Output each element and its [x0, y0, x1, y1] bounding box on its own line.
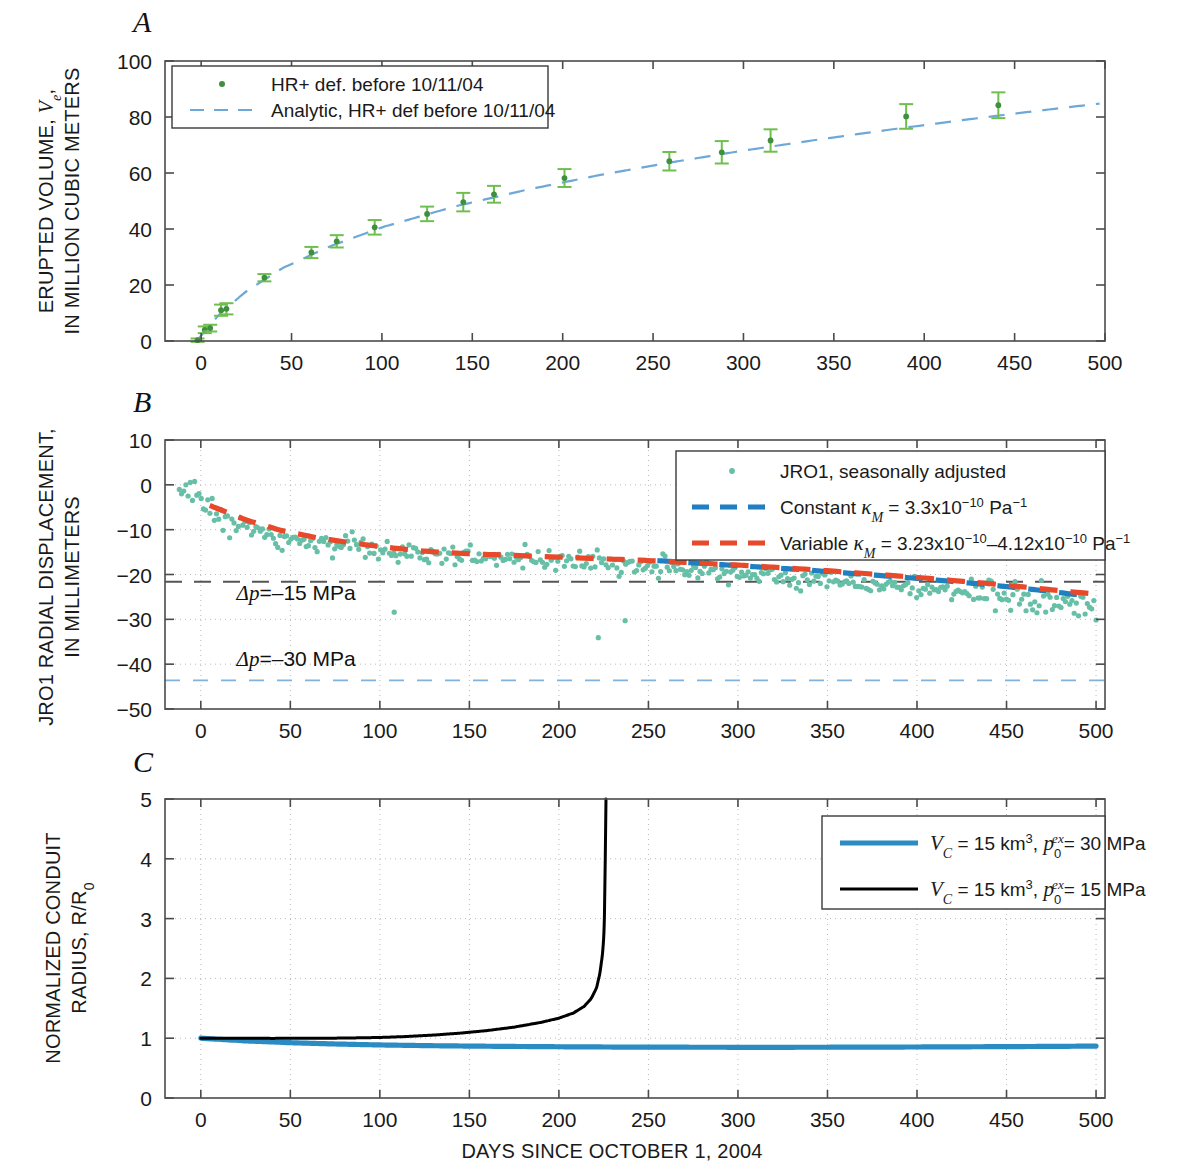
- scatter-point: [881, 586, 886, 591]
- scatter-point: [1010, 592, 1015, 597]
- scatter-point: [1037, 603, 1042, 608]
- scatter-point: [905, 580, 910, 585]
- y-tick-label: 20: [129, 274, 152, 297]
- scatter-point: [619, 570, 624, 575]
- scatter-point: [245, 525, 250, 530]
- scatter-point: [562, 564, 567, 569]
- scatter-point: [1043, 610, 1048, 615]
- scatter-point: [376, 556, 381, 561]
- scatter-point: [923, 587, 928, 592]
- x-tick-label: 500: [1079, 719, 1114, 742]
- scatter-point: [1074, 600, 1079, 605]
- scatter-point: [1083, 611, 1088, 616]
- x-tick-label: 200: [541, 1108, 576, 1131]
- scatter-point: [614, 565, 619, 570]
- scatter-point: [724, 569, 729, 574]
- scatter-point: [284, 533, 289, 538]
- y-tick-label: 60: [129, 162, 152, 185]
- annotation-dp30: Δp=–30 MPa: [236, 647, 356, 671]
- y-tick-label: −50: [116, 698, 152, 721]
- y-tick-label: 2: [140, 967, 152, 990]
- scatter-point: [573, 564, 578, 569]
- scatter-point: [382, 547, 387, 552]
- y-tick-label: 0: [140, 474, 152, 497]
- data-marker: [562, 175, 568, 181]
- scatter-point: [1069, 598, 1074, 603]
- scatter-point: [1048, 595, 1053, 600]
- scatter-point: [188, 480, 193, 485]
- data-marker: [666, 158, 672, 164]
- legend-panel-a: HR+ def. before 10/11/04Analytic, HR+ de…: [172, 66, 556, 128]
- y-axis-label-a-line2: IN MILLION CUBIC METERS: [61, 68, 83, 335]
- y-axis-label-b-line1: JRO1 RADIAL DISPLACEMENT,: [35, 428, 57, 726]
- legend-label-analytic: Analytic, HR+ def before 10/11/04: [271, 100, 556, 121]
- scatter-point: [277, 533, 282, 538]
- scatter-point: [1063, 599, 1068, 604]
- scatter-point: [601, 556, 606, 561]
- scatter-point: [363, 555, 368, 560]
- scatter-point: [798, 588, 803, 593]
- scatter-point: [1006, 598, 1011, 603]
- scatter-point: [536, 549, 541, 554]
- scatter-point: [1032, 599, 1037, 604]
- scatter-point: [507, 556, 512, 561]
- scatter-point: [717, 574, 722, 579]
- scatter-point: [592, 564, 597, 569]
- scatter-point: [1091, 598, 1096, 603]
- scatter-point: [1019, 597, 1024, 602]
- scatter-point: [231, 520, 236, 525]
- x-tick-label: 50: [279, 1108, 302, 1131]
- annotation-symbol: Δp: [236, 647, 260, 671]
- data-marker: [424, 211, 430, 217]
- scatter-point: [802, 571, 807, 576]
- scatter-point: [356, 547, 361, 552]
- data-marker: [903, 114, 909, 120]
- scatter-point: [1076, 613, 1081, 618]
- scatter-point: [352, 537, 357, 542]
- x-tick-label: 0: [195, 351, 207, 374]
- scatter-point: [503, 557, 508, 562]
- scatter-point: [888, 579, 893, 584]
- scatter-point: [409, 554, 414, 559]
- scatter-point: [406, 542, 411, 547]
- panel-letter-A: A: [131, 5, 152, 38]
- x-tick-label: 400: [907, 351, 942, 374]
- scatter-point-outlier: [392, 610, 397, 615]
- y-tick-label: 10: [129, 429, 152, 452]
- x-tick-label: 200: [541, 719, 576, 742]
- scatter-point: [347, 546, 352, 551]
- data-marker: [372, 224, 378, 230]
- scatter-point: [1002, 590, 1007, 595]
- x-tick-label: 400: [899, 1108, 934, 1131]
- scatter-point: [630, 558, 635, 563]
- x-tick-label: 100: [362, 719, 397, 742]
- y-tick-label: 80: [129, 106, 152, 129]
- x-tick-label: 0: [195, 1108, 207, 1131]
- scatter-point: [816, 574, 821, 579]
- y-tick-label: −30: [116, 608, 152, 631]
- scatter-point: [807, 582, 812, 587]
- scatter-point: [1058, 605, 1063, 610]
- legend-label-hr-def: HR+ def. before 10/11/04: [271, 74, 484, 95]
- scatter-point: [606, 565, 611, 570]
- data-marker: [218, 307, 224, 313]
- scatter-point: [925, 582, 930, 587]
- x-tick-label: 450: [989, 1108, 1024, 1131]
- panel-letter-B: B: [133, 385, 151, 418]
- scatter-point: [792, 575, 797, 580]
- x-tick-label: 450: [989, 719, 1024, 742]
- scatter-point: [385, 539, 390, 544]
- scatter-point: [687, 573, 692, 578]
- y-tick-label: 4: [140, 848, 152, 871]
- x-tick-label: 200: [545, 351, 580, 374]
- scatter-point: [654, 564, 659, 569]
- scatter-point: [426, 560, 431, 565]
- scatter-point: [260, 526, 265, 531]
- data-marker: [334, 238, 340, 244]
- scatter-point: [199, 496, 204, 501]
- scatter-point: [868, 588, 873, 593]
- scatter-point: [452, 562, 457, 567]
- scatter-point: [918, 592, 923, 597]
- scatter-point: [183, 482, 188, 487]
- x-tick-label: 350: [810, 719, 845, 742]
